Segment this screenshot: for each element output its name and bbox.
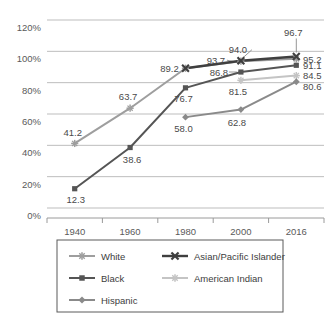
legend-label: American Indian xyxy=(194,273,263,284)
data-point-marker xyxy=(238,69,243,74)
y-axis-tick-label: 60% xyxy=(22,116,42,127)
data-point-label: 81.5 xyxy=(229,86,248,97)
y-axis-tick-label: 0% xyxy=(27,210,41,221)
x-axis-tick-labels: 19401960198020002016 xyxy=(64,226,307,237)
data-point-marker xyxy=(182,114,189,121)
data-point-marker xyxy=(71,140,78,147)
legend-item-white[interactable]: White xyxy=(69,251,125,262)
data-point-label: 80.6 xyxy=(303,81,322,92)
data-point-marker xyxy=(78,252,86,260)
data-point-label: 38.6 xyxy=(123,154,142,165)
legend-item-asian-pacific-islander[interactable]: Asian/Pacific Islander xyxy=(162,251,285,262)
data-point-label: 58.0 xyxy=(174,123,193,134)
x-axis-tick-label: 2000 xyxy=(230,226,251,237)
legend-item-black[interactable]: Black xyxy=(69,273,124,284)
data-point-label: 63.7 xyxy=(119,91,138,102)
y-axis-tick-label: 100% xyxy=(17,53,42,64)
data-point-marker xyxy=(238,106,245,113)
x-axis-tick-label: 1940 xyxy=(64,226,85,237)
legend-label: White xyxy=(101,251,125,262)
y-axis-tick-label: 40% xyxy=(22,147,42,158)
y-axis-tick-label: 20% xyxy=(22,179,42,190)
legend-label: Black xyxy=(101,273,124,284)
data-point-label: 93.7 xyxy=(207,55,226,66)
data-point-marker xyxy=(128,145,133,150)
data-point-label: 41.2 xyxy=(63,127,82,138)
line-chart: 0%20%40%60%80%100%120% 19401960198020002… xyxy=(0,0,336,327)
y-axis-tick-label: 120% xyxy=(17,22,42,33)
chart-container: 0%20%40%60%80%100%120% 19401960198020002… xyxy=(0,0,336,327)
x-axis xyxy=(47,218,324,223)
data-point-label: 96.7 xyxy=(284,27,303,38)
x-axis-tick-label: 1980 xyxy=(175,226,196,237)
data-point-marker xyxy=(183,85,188,90)
data-point-marker xyxy=(171,274,179,282)
data-point-marker xyxy=(72,186,77,191)
x-axis-tick-label: 1960 xyxy=(120,226,141,237)
legend-item-american-indian[interactable]: American Indian xyxy=(162,273,263,284)
data-point-label: 12.3 xyxy=(66,194,85,205)
data-point-marker xyxy=(294,63,299,68)
data-point-marker xyxy=(293,72,300,79)
legend-item-hispanic[interactable]: Hispanic xyxy=(69,295,138,306)
legend-label: Hispanic xyxy=(101,295,138,306)
y-axis-tick-labels: 0%20%40%60%80%100%120% xyxy=(17,22,42,221)
data-point-marker xyxy=(237,77,244,84)
legend-label: Asian/Pacific Islander xyxy=(194,251,285,262)
data-point-marker xyxy=(127,105,134,112)
data-point-marker xyxy=(293,78,300,85)
series-line-american-indian xyxy=(241,76,296,81)
x-axis-tick-label: 2016 xyxy=(286,226,307,237)
data-point-marker xyxy=(79,275,84,280)
data-point-label: 89.2 xyxy=(160,63,179,74)
data-point-label: 62.8 xyxy=(228,117,247,128)
data-point-marker xyxy=(78,296,85,303)
data-point-label: 86.8 xyxy=(210,67,229,78)
data-point-label: 94.0 xyxy=(229,44,248,55)
chart-legend: WhiteAsian/Pacific IslanderBlackAmerican… xyxy=(57,240,285,312)
y-axis-tick-label: 80% xyxy=(22,85,42,96)
data-point-label: 84.5 xyxy=(303,70,322,81)
data-point-label: 76.7 xyxy=(174,93,193,104)
